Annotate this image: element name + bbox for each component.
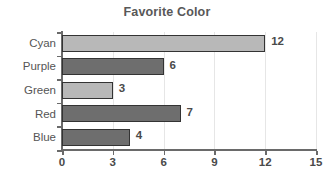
x-tick-label: 3 — [98, 156, 128, 168]
chart-title: Favorite Color — [0, 5, 334, 19]
bar-purple[interactable] — [62, 58, 164, 75]
x-tick-label: 9 — [199, 156, 229, 168]
category-label-green: Green — [0, 84, 56, 96]
category-label-cyan: Cyan — [0, 37, 56, 49]
gridline — [316, 32, 317, 150]
x-tick-label: 0 — [47, 156, 77, 168]
y-tick — [57, 126, 62, 128]
bar-chart: Favorite Color 126374 CyanPurpleGreenRed… — [0, 0, 334, 179]
x-tick-label: 12 — [250, 156, 280, 168]
x-tick — [113, 151, 115, 155]
category-label-blue: Blue — [0, 131, 56, 143]
bar-blue[interactable] — [62, 129, 130, 146]
bar-value-label: 12 — [271, 35, 284, 47]
bar-value-label: 3 — [119, 82, 125, 94]
y-tick — [57, 56, 62, 58]
x-tick-label: 6 — [149, 156, 179, 168]
y-tick — [57, 103, 62, 105]
bar-value-label: 7 — [187, 106, 193, 118]
bar-row: 7 — [62, 103, 316, 127]
bar-value-label: 6 — [170, 59, 176, 71]
x-tick — [62, 151, 64, 155]
bar-row: 12 — [62, 32, 316, 56]
x-tick — [316, 151, 318, 155]
x-tick — [265, 151, 267, 155]
x-tick-label: 15 — [301, 156, 331, 168]
bar-row: 6 — [62, 56, 316, 80]
bar-value-label: 4 — [136, 129, 142, 141]
y-tick — [57, 32, 62, 34]
bar-red[interactable] — [62, 105, 181, 122]
bar-green[interactable] — [62, 82, 113, 99]
category-label-purple: Purple — [0, 60, 56, 72]
bar-cyan[interactable] — [62, 35, 265, 52]
bar-row: 3 — [62, 79, 316, 103]
category-label-red: Red — [0, 108, 56, 120]
x-tick — [164, 151, 166, 155]
bar-row: 4 — [62, 126, 316, 150]
y-tick — [57, 79, 62, 81]
x-tick — [214, 151, 216, 155]
